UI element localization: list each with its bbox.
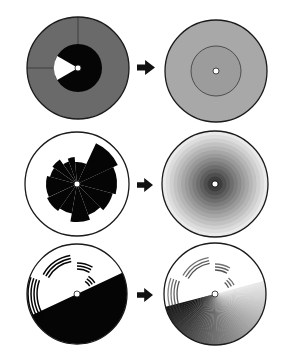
row-3-halfdisk-to-angular-gradient (27, 243, 266, 345)
half-black-ring-arcs-before (27, 244, 127, 344)
right-arrow-icon (137, 288, 153, 302)
uniform-disk-after (165, 20, 267, 122)
angular-gradient-disk-after (164, 243, 266, 345)
diagram-canvas (0, 0, 291, 359)
row-1-sectored-to-uniform (27, 17, 267, 122)
sectored-disk-before (27, 17, 129, 119)
right-arrow-icon (137, 178, 153, 192)
polar-rose-disk-before (25, 132, 129, 236)
center-hub (75, 65, 81, 71)
center-hub (213, 68, 219, 74)
arrow-shape (137, 288, 153, 302)
row-2-rose-to-radial-gradient (25, 131, 268, 237)
center-hub (74, 291, 80, 297)
arrow-shape (137, 60, 155, 75)
disk-transform-diagram (0, 0, 291, 359)
center-hub (212, 181, 218, 187)
radial-gradient-disk-after (162, 131, 268, 237)
arrow-shape (137, 178, 153, 192)
right-arrow-icon (137, 60, 155, 75)
center-hub (74, 181, 80, 187)
center-hub (212, 291, 218, 297)
